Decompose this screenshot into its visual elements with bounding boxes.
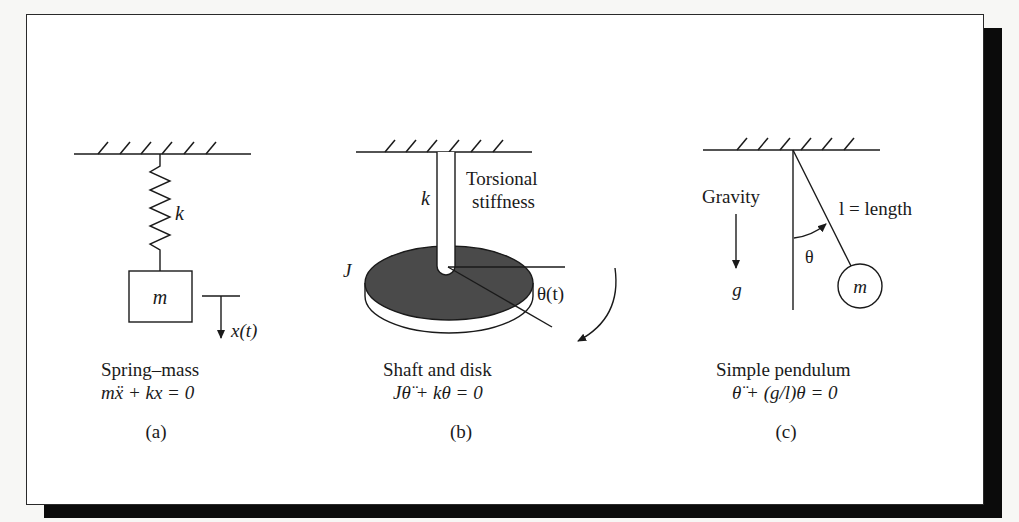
angle-arrow-icon [794,224,826,238]
panel-b-tag: (b) [450,421,472,443]
panel-a-spring-mass: k m x(t) Spring–mass mẍ + kx = 0 (a) [74,142,257,443]
bob-mass-label: m [853,276,867,297]
disk-angle-label: θ(t) [537,283,564,305]
shaft-icon [437,152,455,275]
panel-c-title: Simple pendulum [716,359,851,380]
mass-label: m [153,286,167,308]
panel-b-equation: Jθ̈ + kθ = 0 [393,382,483,403]
panel-c-pendulum: m θ l = length Gravity g Simple pendulum… [702,138,912,443]
length-label: l = length [839,198,912,219]
stiffness-label: stiffness [472,191,535,212]
spring-stiffness-label: k [175,202,185,224]
panel-b-title: Shaft and disk [383,359,492,380]
ground-support-c [703,138,880,150]
shaft-stiffness-label: k [421,187,431,209]
gravity-g-label: g [732,279,742,300]
ground-support-b [356,140,532,152]
panel-b-shaft-disk: k Torsional stiffness J θ(t) Shaft and d… [343,140,616,443]
torsional-label: Torsional [466,168,538,189]
gravity-label: Gravity [702,186,761,207]
spring-icon [150,154,170,272]
vibration-models-diagram: k m x(t) Spring–mass mẍ + kx = 0 (a) [0,0,1019,522]
panel-c-tag: (c) [775,421,796,443]
panel-a-title: Spring–mass [101,359,199,380]
ground-support-a [74,142,251,154]
panel-c-equation: θ̈ + (g/l)θ = 0 [732,382,838,404]
inertia-label: J [343,260,353,281]
displacement-label: x(t) [230,320,257,342]
pendulum-angle-label: θ [805,247,814,267]
rotation-arrow-icon [578,268,616,341]
panel-a-equation: mẍ + kx = 0 [101,382,195,403]
panel-a-tag: (a) [145,421,166,443]
